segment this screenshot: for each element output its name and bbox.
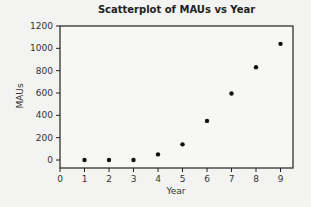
y-axis: 020040060080010001200: [30, 21, 60, 165]
x-tick-label: 5: [180, 174, 186, 184]
data-point: [82, 158, 86, 162]
x-tick-label: 0: [57, 174, 63, 184]
scatter-plot: 020040060080010001200 0123456789 Year MA…: [0, 0, 311, 207]
data-point: [278, 42, 282, 46]
y-tick-label: 1000: [30, 43, 53, 53]
x-axis-label: Year: [165, 186, 185, 196]
y-tick-label: 600: [36, 88, 53, 98]
y-tick-label: 0: [47, 155, 53, 165]
x-tick-label: 4: [155, 174, 161, 184]
x-axis: 0123456789: [57, 168, 284, 184]
data-point: [180, 142, 184, 146]
y-tick-label: 200: [36, 133, 53, 143]
data-point: [254, 65, 258, 69]
data-point: [107, 158, 111, 162]
y-axis-label: MAUs: [15, 83, 25, 109]
x-tick-label: 1: [82, 174, 88, 184]
data-point: [156, 152, 160, 156]
y-tick-label: 1200: [30, 21, 53, 31]
x-tick-label: 2: [106, 174, 112, 184]
data-point: [205, 119, 209, 123]
y-tick-label: 400: [36, 110, 53, 120]
data-point: [131, 158, 135, 162]
x-tick-label: 8: [253, 174, 259, 184]
x-tick-label: 3: [131, 174, 137, 184]
x-tick-label: 7: [229, 174, 235, 184]
x-tick-label: 6: [204, 174, 210, 184]
y-tick-label: 800: [36, 66, 53, 76]
x-tick-label: 9: [278, 174, 284, 184]
data-point: [229, 91, 233, 95]
plot-area: [60, 26, 293, 168]
